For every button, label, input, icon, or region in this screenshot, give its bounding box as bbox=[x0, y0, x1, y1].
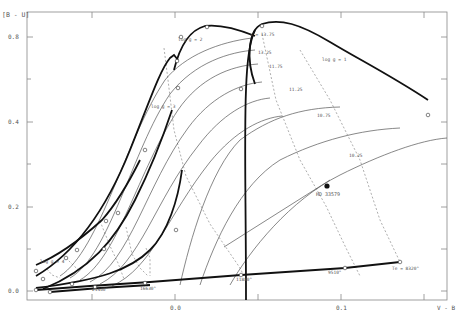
abundance-label: 13.25 bbox=[258, 50, 272, 55]
x-axis-label: V - B bbox=[437, 304, 455, 311]
star-marker-icon bbox=[324, 183, 329, 188]
logg-label: log g = 3 bbox=[151, 104, 176, 109]
curve-logg-2-top bbox=[174, 26, 255, 70]
x-tick-label: 0.1 bbox=[336, 304, 347, 311]
logg-label: log g = 4 bbox=[40, 259, 65, 264]
temperature-label: 21400° bbox=[92, 287, 109, 292]
temperature-label: 11880° bbox=[236, 277, 253, 282]
curve-logg-2-right bbox=[245, 30, 255, 300]
curve-main-sequence bbox=[36, 170, 182, 288]
logg-label: log g = 1 bbox=[322, 57, 347, 62]
y-tick-label: 0.4 bbox=[8, 118, 19, 125]
y-tick-label: 0.0 bbox=[8, 287, 19, 294]
abundance-label: 10.25 bbox=[349, 153, 363, 158]
logg-label: log g = 2 bbox=[178, 37, 203, 42]
y-axis-label: [B - U] bbox=[2, 11, 29, 19]
abundance-label: 11.25 bbox=[289, 87, 303, 92]
abundance-label: 10.75 bbox=[317, 113, 331, 118]
y-tick-label: 0.2 bbox=[8, 203, 19, 210]
chart: [B - U] 0.8 0.4 0.2 0.0 0.0 0.1 V - B bbox=[0, 0, 458, 320]
y-ticks bbox=[27, 37, 447, 291]
plot-frame bbox=[27, 12, 447, 300]
temperature-label: Te = 8320° bbox=[392, 266, 419, 271]
abundance-label: 11.75 bbox=[269, 64, 283, 69]
x-tick-label: 0.0 bbox=[170, 304, 181, 311]
star-label: HD 33579 bbox=[316, 191, 340, 197]
y-tick-label: 0.8 bbox=[8, 33, 19, 40]
temperature-label: 9510° bbox=[328, 270, 342, 275]
curve-logg-4 bbox=[36, 160, 140, 265]
temperature-label: 16630° bbox=[140, 286, 157, 291]
abundance-label: x = 13.75 bbox=[250, 32, 275, 37]
